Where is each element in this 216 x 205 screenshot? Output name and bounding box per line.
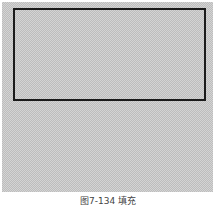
figure-caption: 图7-134 填充 — [0, 196, 216, 205]
selection-rectangle — [13, 8, 206, 101]
